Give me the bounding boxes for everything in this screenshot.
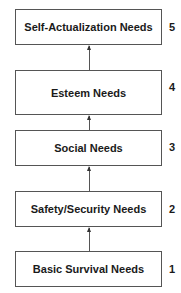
arrow-1-to-2: [89, 228, 90, 251]
level-5-label: Self-Actualization Needs: [24, 21, 152, 33]
level-2-label: Safety/Security Needs: [31, 203, 147, 215]
arrow-2-to-3: [89, 167, 90, 191]
level-3-number: 3: [169, 141, 175, 153]
level-2-box: Safety/Security Needs: [15, 191, 162, 227]
level-3-box: Social Needs: [15, 130, 162, 166]
level-2-number: 2: [169, 203, 175, 215]
level-1-label: Basic Survival Needs: [33, 263, 144, 275]
level-1-number: 1: [169, 263, 175, 275]
level-5-box: Self-Actualization Needs: [15, 9, 162, 45]
level-3-label: Social Needs: [54, 142, 122, 154]
level-4-label: Esteem Needs: [51, 87, 126, 99]
level-4-box: Esteem Needs: [15, 70, 162, 115]
arrow-4-to-5: [89, 46, 90, 70]
level-1-box: Basic Survival Needs: [15, 251, 162, 287]
arrow-3-to-4: [89, 116, 90, 130]
level-4-number: 4: [169, 81, 175, 93]
level-5-number: 5: [169, 21, 175, 33]
